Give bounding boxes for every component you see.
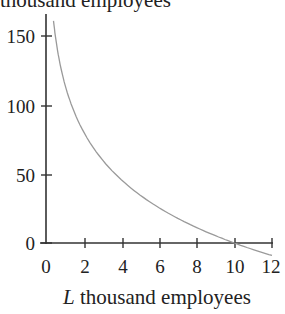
x-tick-8: 8 xyxy=(192,256,202,277)
x-tick-0: 0 xyxy=(41,256,51,277)
y-tick-50: 50 xyxy=(16,165,35,186)
y-tick-150: 150 xyxy=(7,26,36,47)
y-tick-labels: 150 100 50 0 xyxy=(7,26,36,254)
y-tick-0: 0 xyxy=(26,233,36,254)
x-axis-unit: thousand employees xyxy=(75,285,251,309)
x-tick-2: 2 xyxy=(80,256,90,277)
x-tick-10: 10 xyxy=(226,256,245,277)
x-axis-variable: L xyxy=(62,285,75,309)
y-tick-100: 100 xyxy=(7,96,36,117)
x-tick-6: 6 xyxy=(155,256,165,277)
data-curve xyxy=(54,21,273,256)
x-tick-12: 12 xyxy=(262,256,281,277)
x-axis-title: L thousand employees xyxy=(62,285,251,309)
chart: thousand employees 150 100 50 0 0 2 4 6 … xyxy=(0,0,285,314)
x-tick-4: 4 xyxy=(118,256,128,277)
y-axis-title: thousand employees xyxy=(0,0,171,12)
x-tick-labels: 0 2 4 6 8 10 12 xyxy=(41,256,280,277)
